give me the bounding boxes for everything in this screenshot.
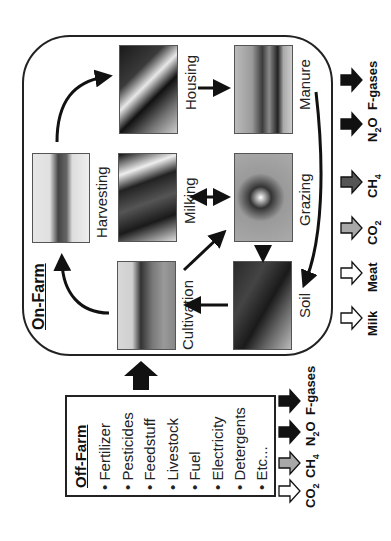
off-farm-item: • Fertilizer — [96, 423, 113, 490]
off-farm-output-arrows — [279, 390, 300, 502]
n2o-arrow — [341, 113, 362, 135]
off-f-gases-arrow — [279, 390, 300, 412]
off-f-gases-label: F-gases — [303, 366, 318, 415]
arrow-cultivation-to-harvesting — [62, 262, 109, 313]
off-n2o-arrow — [279, 421, 300, 443]
f-gases-arrow — [341, 69, 362, 91]
off-n2o-label: N2O — [303, 421, 321, 446]
off-farm-item: • Etc... — [253, 446, 270, 490]
off-farm-item: • Pesticides — [119, 412, 136, 490]
arrow-harvesting-to-housing — [57, 77, 104, 142]
meat-output-label: Meat — [365, 262, 380, 292]
n2o-output-label: N2O — [365, 117, 383, 142]
ch4-arrow — [341, 171, 362, 193]
off-farm-item: • Feedstuff — [141, 418, 158, 490]
off-ch4-arrow — [279, 452, 300, 474]
milk-output-label: Milk — [365, 311, 380, 336]
f-gases-output-label: F-gases — [365, 61, 380, 110]
off-farm-item: • Detergents — [231, 407, 248, 490]
off-farm-title: Off-Farm — [72, 425, 89, 488]
arrow-offfarm-to-onfarm — [124, 361, 158, 390]
off-co2-arrow — [279, 480, 300, 502]
arrow-manure-to-soil — [306, 92, 321, 280]
co2-arrow — [341, 217, 362, 239]
ch4-output-label: CH4 — [365, 174, 383, 198]
on-farm-output-arrows — [341, 69, 362, 329]
off-farm-item: • Fuel — [186, 451, 203, 490]
co2-output-label: CO2 — [365, 220, 383, 245]
off-ch4-label: CH4 — [303, 454, 321, 478]
off-farm-item: • Livestock — [164, 418, 181, 490]
meat-arrow — [341, 262, 362, 284]
milk-arrow — [341, 307, 362, 329]
off-farm-item: • Electricity — [209, 416, 226, 490]
arrow-cultivation-to-grazing — [184, 236, 220, 270]
off-co2-label: CO2 — [303, 483, 321, 508]
